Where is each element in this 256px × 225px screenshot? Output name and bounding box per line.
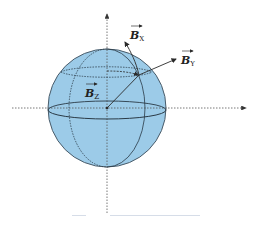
center-point [106, 107, 108, 109]
svg-text:BX: BX [129, 29, 144, 43]
figure-caption [70, 212, 200, 220]
caption-fragment [110, 215, 200, 216]
bx-label: BX [129, 26, 144, 43]
svg-text:BY: BY [180, 54, 195, 68]
sphere-diagram: BX BY BZ [0, 0, 256, 225]
by-label: BY [180, 51, 195, 68]
caption-fragment [72, 215, 86, 216]
